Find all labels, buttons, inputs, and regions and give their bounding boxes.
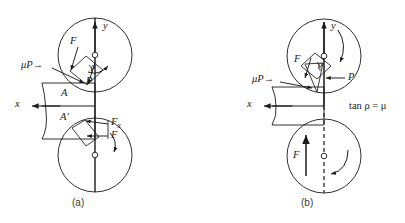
panel-b-upper-pivot-icon [321, 53, 327, 59]
panel-a-point-A-prime-label: A′ [60, 112, 69, 123]
panel-b-normal-P-label: P [348, 72, 354, 83]
panel-b-friction-muP-label: μP→ [252, 74, 274, 85]
panel-b-x-axis-label: x [247, 99, 252, 110]
panel-a-x-axis-label: x [15, 99, 20, 110]
panel-a-group [32, 18, 132, 192]
panel-b-upper-rotation-arrow-icon [338, 30, 344, 62]
panel-a-lower-Fx-label: Fx [111, 117, 121, 130]
panel-a-friction-muP-label: μP→ [21, 60, 43, 71]
panel-a-normal-P-label: P [86, 76, 92, 87]
panel-a-upper-pivot-icon [92, 52, 98, 58]
panel-b-lower-pivot-icon [321, 153, 327, 159]
panel-b-group [264, 19, 361, 193]
panel-a-caption: (a) [72, 197, 84, 208]
panel-a-lower-F-label: F [111, 130, 117, 141]
panel-a-rho-angle-label: ρ [91, 62, 95, 71]
panel-b-lower-rotation-arrow-icon [331, 150, 348, 174]
panel-a-y-axis-label: y [103, 21, 108, 32]
panel-b-caption: (b) [301, 197, 313, 208]
figure-root: y x F P μP→ ρ A A′ Fx F (a) y x F P μP→ … [0, 0, 405, 223]
panel-b-y-axis-label: y [331, 21, 336, 32]
panel-a-lower-Fx-subscript: x [117, 121, 120, 130]
panel-b-force-F-label: F [294, 54, 300, 65]
panel-a-point-A-label: A [61, 88, 67, 99]
panel-a-lower-Fx-arrow [86, 121, 108, 124]
panel-a-force-F-label: F [70, 36, 76, 47]
friction-angle-equation: tan ρ = μ [349, 100, 387, 111]
panel-a-lower-pivot-icon [92, 152, 98, 158]
panel-b-rho-angle-label: ρ [318, 60, 322, 69]
panel-b-lower-F-label: F [293, 150, 299, 161]
